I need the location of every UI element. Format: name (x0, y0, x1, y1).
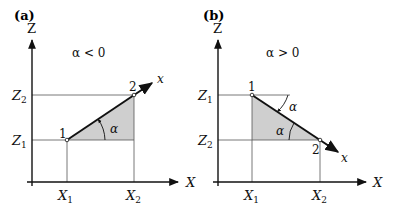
diagram-canvas: (a) Z X α < 0 α 1 2 x Z2 Z1 X1 X2 (b) Z (0, 0, 394, 213)
panel-b-angle-label-top: α (289, 100, 297, 114)
panel-a-point-2-label: 2 (129, 80, 137, 94)
panel-b-local-axis-label: x (341, 151, 348, 165)
panel-a-angle-label: α (110, 122, 118, 136)
panel-b-point-2-label: 2 (312, 143, 320, 157)
panel-b-x-axis-label: X (372, 175, 383, 190)
panel-b-node-2 (318, 138, 322, 142)
panel-a-z1-tick: Z1 (11, 133, 27, 150)
panel-a-local-axis-label: x (157, 72, 164, 86)
panel-b-z-axis-label: Z (213, 21, 222, 36)
panel-b-x2-tick: X2 (311, 188, 327, 205)
panel-b: (b) Z X α > 0 α α 1 2 x Z1 Z2 X1 X2 (197, 8, 383, 205)
panel-a: (a) Z X α < 0 α 1 2 x Z2 Z1 X1 X2 (11, 8, 196, 205)
panel-b-angle-arc-top (277, 95, 288, 112)
panel-a-x1-tick: X1 (57, 188, 73, 205)
panel-b-z2-tick: Z2 (197, 133, 213, 150)
panel-b-condition: α > 0 (266, 46, 299, 60)
panel-a-x2-tick: X2 (125, 188, 141, 205)
panel-b-x1-tick: X1 (243, 188, 259, 205)
panel-a-condition: α < 0 (72, 46, 105, 60)
panel-a-z2-tick: Z2 (11, 88, 27, 105)
panel-b-angle-label-inner: α (276, 124, 284, 138)
panel-b-point-1-label: 1 (248, 80, 256, 94)
panel-a-point-1-label: 1 (59, 127, 67, 141)
panel-b-z1-tick: Z1 (197, 88, 213, 105)
panel-a-z-axis-label: Z (27, 21, 36, 36)
panel-a-x-axis-label: X (185, 175, 196, 190)
